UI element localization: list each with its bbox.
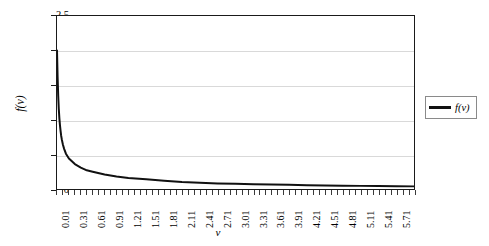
- x-axis-tick-mark: [343, 190, 344, 195]
- x-axis-tick-mark: [319, 190, 320, 195]
- x-axis-tick-label: 4.81: [347, 211, 358, 229]
- x-axis-tick-mark: [379, 190, 380, 195]
- x-axis-tick-mark: [170, 190, 171, 195]
- x-axis-tick-label: 0.61: [96, 211, 107, 229]
- series-line-f-of-v: [57, 16, 414, 189]
- x-axis-tick-label: 1.21: [132, 211, 143, 229]
- x-axis-tick-label: 3.91: [293, 211, 304, 229]
- x-axis-tick-mark: [68, 190, 69, 195]
- x-axis-tick-mark: [289, 190, 290, 195]
- x-axis-tick-mark: [122, 190, 123, 195]
- x-axis-tick-mark: [224, 190, 225, 195]
- x-axis-tick-mark: [242, 190, 243, 195]
- x-axis-tick-mark: [86, 190, 87, 195]
- x-axis-tick-mark: [361, 190, 362, 195]
- x-axis-tick-mark: [295, 190, 296, 195]
- x-axis-tick-mark: [116, 190, 117, 195]
- x-axis-tick-label: 0.91: [114, 211, 125, 229]
- x-axis-tick-mark: [200, 190, 201, 195]
- x-axis-tick-mark: [218, 190, 219, 195]
- x-axis-tick-mark: [397, 190, 398, 195]
- x-axis-tick-mark: [271, 190, 272, 195]
- x-axis-tick-label: 5.41: [383, 211, 394, 229]
- x-axis-tick-mark: [188, 190, 189, 195]
- x-axis-tick-label: 3.61: [275, 211, 286, 229]
- x-axis-tick-mark: [409, 190, 410, 195]
- x-axis-tick-mark: [265, 190, 266, 195]
- x-axis-tick-mark: [176, 190, 177, 195]
- x-axis-tick-mark: [277, 190, 278, 195]
- x-axis-tick-mark: [391, 190, 392, 195]
- x-axis-tick-label: 5.11: [365, 211, 376, 228]
- x-axis-tick-mark: [134, 190, 135, 195]
- x-axis-tick-label: 0.31: [78, 211, 89, 229]
- x-axis-tick-mark: [56, 190, 57, 195]
- plot-area: [56, 15, 415, 190]
- x-axis-tick-label: 4.51: [329, 211, 340, 229]
- x-axis-tick-label: 0.01: [60, 211, 71, 229]
- x-axis-tick-mark: [254, 190, 255, 195]
- x-axis-tick-mark: [104, 190, 105, 195]
- legend-line-swatch: [429, 106, 451, 108]
- x-axis-tick-mark: [337, 190, 338, 195]
- x-axis-tick-mark: [367, 190, 368, 195]
- x-axis-tick-mark: [206, 190, 207, 195]
- x-axis-tick-mark: [62, 190, 63, 195]
- x-axis-tick-mark: [259, 190, 260, 195]
- x-axis-tick-mark: [355, 190, 356, 195]
- x-axis-tick-label: 3.01: [240, 211, 251, 229]
- x-axis-tick-mark: [152, 190, 153, 195]
- x-axis-tick-label: 3.31: [258, 211, 269, 229]
- x-axis-tick-mark: [158, 190, 159, 195]
- legend-label: f(v): [455, 102, 470, 113]
- x-axis-tick-mark: [313, 190, 314, 195]
- x-axis-tick-mark: [301, 190, 302, 195]
- x-axis-tick-label: 1.51: [150, 211, 161, 229]
- x-axis-title: v: [206, 226, 230, 238]
- x-axis-tick-mark: [248, 190, 249, 195]
- chart-legend: f(v): [425, 96, 477, 119]
- x-axis-tick-mark: [230, 190, 231, 195]
- x-axis-tick-mark: [128, 190, 129, 195]
- x-axis-tick-label: 4.21: [311, 211, 322, 229]
- x-axis-tick-mark: [164, 190, 165, 195]
- x-axis-tick-mark: [373, 190, 374, 195]
- x-axis-tick-mark: [212, 190, 213, 195]
- x-axis-tick-mark: [283, 190, 284, 195]
- x-axis-tick-mark: [140, 190, 141, 195]
- x-axis-tick-label: 1.81: [168, 211, 179, 229]
- x-axis-tick-mark: [98, 190, 99, 195]
- y-axis-title: f(v): [13, 92, 28, 116]
- chart-container: f(v) 00.511.522.5 0.010.310.610.911.211.…: [0, 0, 489, 246]
- x-axis-tick-mark: [74, 190, 75, 195]
- x-axis-tick-label: 5.71: [401, 211, 412, 229]
- x-axis-tick-mark: [331, 190, 332, 195]
- x-axis-tick-mark: [236, 190, 237, 195]
- x-axis-tick-mark: [385, 190, 386, 195]
- x-axis-tick-mark: [403, 190, 404, 195]
- x-axis-tick-mark: [415, 190, 416, 195]
- x-axis-tick-mark: [146, 190, 147, 195]
- x-axis-tick-mark: [110, 190, 111, 195]
- x-axis-tick-mark: [194, 190, 195, 195]
- x-axis-tick-mark: [182, 190, 183, 195]
- x-axis-tick-mark: [80, 190, 81, 195]
- x-axis-tick-mark: [92, 190, 93, 195]
- x-axis-tick-labels: 0.010.310.610.911.211.511.812.112.412.71…: [0, 196, 489, 240]
- x-axis-tick-mark: [349, 190, 350, 195]
- x-axis-tick-mark: [325, 190, 326, 195]
- x-axis-tick-mark: [307, 190, 308, 195]
- x-axis-tick-label: 2.11: [186, 211, 197, 228]
